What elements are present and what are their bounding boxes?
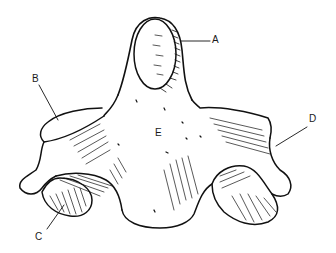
label-D: D [309,114,316,124]
label-C: C [35,232,42,242]
leader-D [276,127,307,146]
label-B: B [32,74,39,84]
right-facet [192,100,271,138]
vertebra-drawing [0,0,336,253]
label-E: E [155,128,162,138]
body-outline [104,95,118,116]
anatomical-figure: A B C D E [0,0,336,253]
leader-B [39,85,58,120]
leader-C [47,205,64,229]
label-A: A [212,35,219,45]
dens-outline [118,18,192,100]
left-facet [41,108,104,142]
